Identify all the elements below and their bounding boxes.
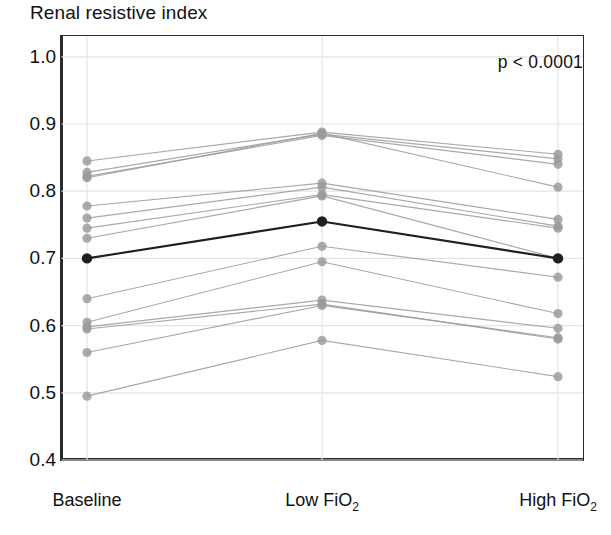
y-axis-tick-0-8: 0.8: [12, 181, 56, 200]
y-axis-tick-0-6: 0.6: [12, 316, 56, 335]
y-axis-tick-0-5: 0.5: [12, 383, 56, 402]
chart-root: Renal resistive index 1.00.90.80.70.60.5…: [0, 0, 611, 535]
plot-area: [60, 35, 584, 461]
x-axis-tick-low-fio2: Low FiO2: [242, 490, 402, 514]
y-axis-tick-0-7: 0.7: [12, 248, 56, 267]
chart-title: Renal resistive index: [30, 2, 207, 24]
y-axis-tick-labels: 1.00.90.80.70.60.50.4: [0, 0, 56, 535]
p-value-annotation: p < 0.0001: [498, 52, 583, 73]
y-axis-tick-0-4: 0.4: [12, 450, 56, 469]
y-axis-tick-1-0: 1.0: [12, 47, 56, 66]
y-axis-tick-0-9: 0.9: [12, 114, 56, 133]
x-axis-tick-baseline: Baseline: [7, 490, 167, 511]
x-axis-tick-high-fio2: High FiO2: [478, 490, 611, 514]
